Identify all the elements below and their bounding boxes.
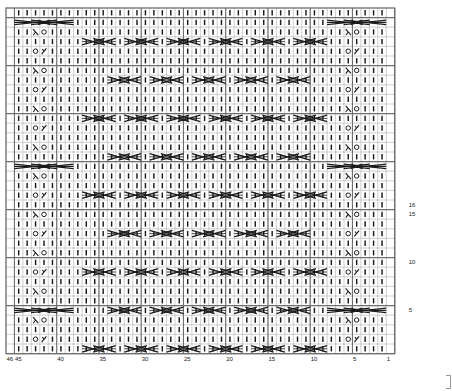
chart-grid-canvas: [0, 0, 452, 391]
edge-bracket-marker: [446, 375, 451, 389]
column-number-1: 1: [387, 356, 390, 362]
column-number-25: 25: [184, 356, 191, 362]
knitting-chart: 464540353025201510511615105: [0, 0, 452, 391]
column-number-20: 20: [226, 356, 233, 362]
row-number-5: 5: [409, 307, 412, 313]
column-number-45: 45: [15, 356, 22, 362]
row-number-16: 16: [409, 202, 416, 208]
column-number-5: 5: [353, 356, 356, 362]
column-number-35: 35: [99, 356, 106, 362]
column-number-40: 40: [57, 356, 64, 362]
column-number-46: 46: [7, 356, 14, 362]
row-number-15: 15: [409, 211, 416, 217]
column-number-10: 10: [311, 356, 318, 362]
column-number-30: 30: [142, 356, 149, 362]
row-number-10: 10: [409, 259, 416, 265]
column-number-15: 15: [268, 356, 275, 362]
